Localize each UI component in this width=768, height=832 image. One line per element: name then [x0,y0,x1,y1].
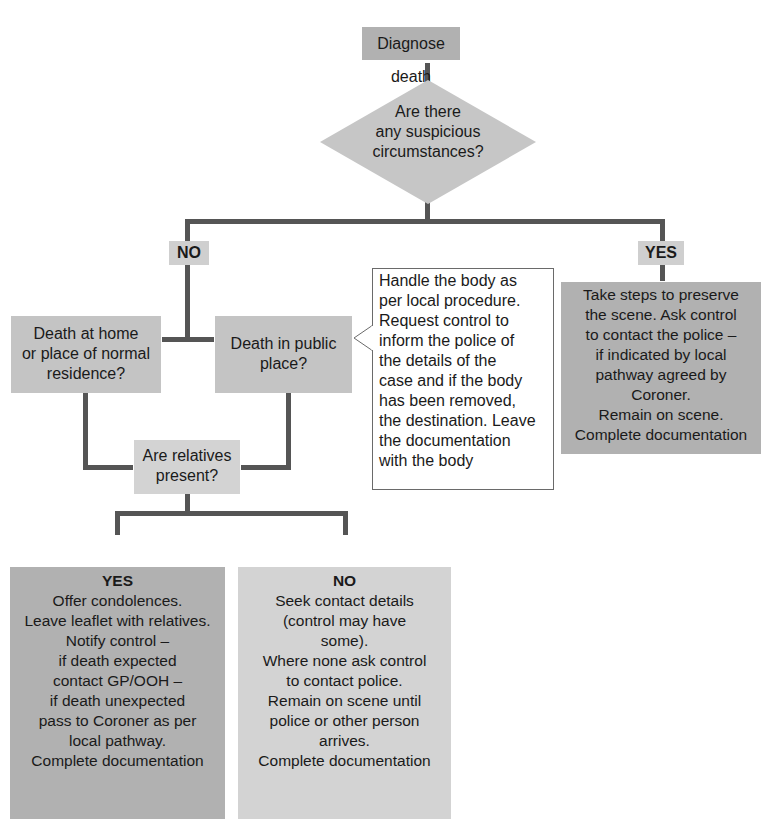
suspicious-decision-text: Are there any suspicious circumstances? [360,102,496,162]
death-in-public-box: Death in public place? [215,316,352,393]
connector-relatives-yes-down [115,511,120,535]
relatives-yes-box: YES Offer condolences. Leave leaflet wit… [10,567,225,819]
connector-public-to-relatives [241,465,291,470]
connector-no-vertical [185,219,190,316]
branch-no-label: NO [169,241,209,265]
connector-no-to-split [185,316,190,340]
branch-yes-label: YES [638,241,684,265]
callout-pointer [353,325,373,351]
death-at-home-box: Death at home or place of normal residen… [11,316,161,393]
connector-public-down [286,393,291,468]
relatives-yes-heading: YES [10,571,225,591]
connector-horizontal-top [185,219,665,224]
connector-home-to-relatives [83,465,133,470]
relatives-no-heading: NO [238,571,451,591]
connector-relatives-no-down [343,511,348,535]
connector-relatives-horizontal [115,511,348,516]
relatives-no-box: NO Seek contact details (control may hav… [238,567,451,819]
diagnose-death-box: Diagnose death [362,27,460,60]
public-place-note: Handle the body as per local procedure. … [372,268,554,490]
yes-action-box: Take steps to preserve the scene. Ask co… [561,282,761,454]
diagnose-death-text: Diagnose death [377,35,445,85]
relatives-present-box: Are relatives present? [134,440,240,494]
connector-home-down [83,393,88,468]
